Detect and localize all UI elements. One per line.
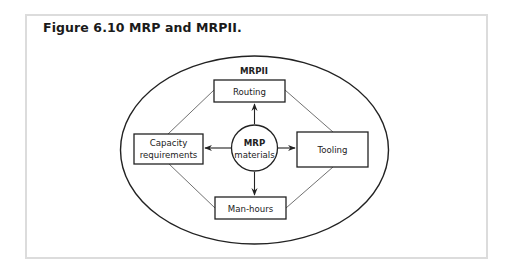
svg-text:MRP: MRP (244, 138, 265, 148)
node-capacity-requirements: Capacity requirements (134, 134, 203, 164)
svg-text:requirements: requirements (140, 150, 198, 160)
svg-text:Routing: Routing (233, 87, 266, 97)
node-man-hours: Man-hours (215, 197, 286, 219)
svg-text:Tooling: Tooling (317, 145, 348, 155)
svg-text:materials: materials (234, 150, 275, 160)
mrpii-label: MRPII (240, 66, 268, 76)
node-routing: Routing (214, 80, 285, 102)
svg-text:Man-hours: Man-hours (228, 204, 274, 214)
node-tooling: Tooling (297, 132, 368, 167)
node-mrp-materials: MRP materials (232, 125, 278, 171)
svg-text:Capacity: Capacity (150, 138, 188, 148)
mrp-diagram: MRPII Routing Capacity requirements MRP … (0, 0, 509, 270)
